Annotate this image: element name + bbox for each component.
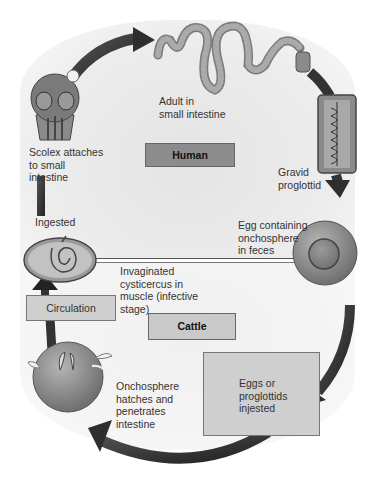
onchosphere-label: Onchosphere hatches and penetrates intes… (116, 380, 179, 430)
cysticercus-icon (24, 236, 96, 282)
gravid-proglottid-label: Gravid proglottid (278, 166, 321, 191)
scolex-label: Scolex attaches to small intestine (29, 146, 103, 184)
ingested-label: Ingested (35, 216, 75, 229)
circulation-box: Circulation (26, 295, 116, 321)
arrow-adult-to-gravid (310, 72, 330, 96)
adult-label: Adult in small intestine (159, 95, 226, 120)
egg-label: Egg containing onchosphere in feces (238, 219, 307, 257)
cysticercus-label: Invaginated cysticercus in muscle (infec… (120, 265, 198, 315)
arrow-scolex-to-adult (72, 27, 155, 78)
scolex-icon (31, 70, 79, 140)
eggs-ingested-label: Eggs or proglottids injested (239, 377, 287, 415)
human-host-label: Human (145, 143, 235, 167)
onchosphere-icon (28, 342, 112, 412)
gravid-proglottid-icon (318, 95, 356, 173)
adult-tapeworm-icon (158, 26, 310, 90)
cattle-host-label: Cattle (148, 313, 236, 340)
arrow-gravid-to-egg (325, 175, 350, 198)
